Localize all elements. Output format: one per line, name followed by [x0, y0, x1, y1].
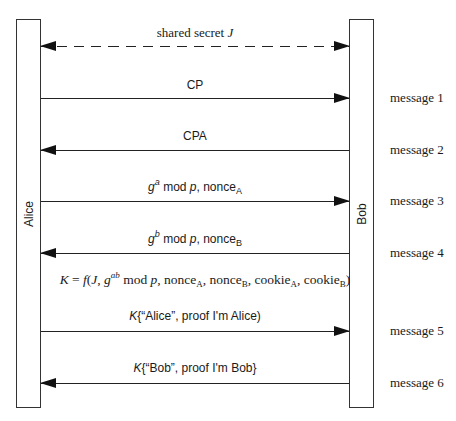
arrow-line: [41, 150, 349, 151]
bob-label: Bob: [355, 203, 369, 224]
arrow-line: [41, 201, 349, 202]
message-3-number: message 3: [390, 193, 444, 209]
arrowhead-right-icon: [334, 93, 350, 103]
bob-lifeline: Bob: [349, 19, 374, 408]
arrowhead-right-icon: [334, 196, 350, 206]
alice-lifeline: Alice: [16, 19, 41, 408]
message-1-label: CP: [41, 78, 349, 92]
message-4-label: gb mod p, nonceB: [41, 232, 349, 246]
arrow-line: [41, 98, 349, 99]
arrow-line: [41, 331, 349, 332]
message-1-number: message 1: [390, 90, 444, 106]
shared-secret-label: shared secret J: [41, 25, 349, 41]
dashed-line: [41, 46, 349, 47]
message-5-label: K{“Alice”, proof I'm Alice): [41, 309, 349, 323]
arrowhead-right-icon: [334, 326, 350, 336]
arrowhead-right-icon: [334, 41, 350, 51]
arrow-line: [41, 253, 349, 254]
arrowhead-left-icon: [40, 145, 56, 155]
message-6-label: K{“Bob”, proof I'm Bob}: [41, 361, 349, 375]
message-5-number: message 5: [390, 323, 444, 339]
message-4-number: message 4: [390, 245, 444, 261]
message-3-label: ga mod p, nonceA: [41, 180, 349, 194]
arrowhead-left-icon: [40, 248, 56, 258]
arrowhead-left-icon: [40, 41, 56, 51]
message-6-number: message 6: [390, 375, 444, 391]
message-2-number: message 2: [390, 142, 444, 158]
message-2-label: CPA: [41, 129, 349, 143]
arrow-line: [41, 383, 349, 384]
key-derivation-formula: K = f(J, gab mod p, nonceA, nonceB, cook…: [30, 272, 380, 288]
alice-label: Alice: [22, 200, 36, 226]
arrowhead-left-icon: [40, 378, 56, 388]
